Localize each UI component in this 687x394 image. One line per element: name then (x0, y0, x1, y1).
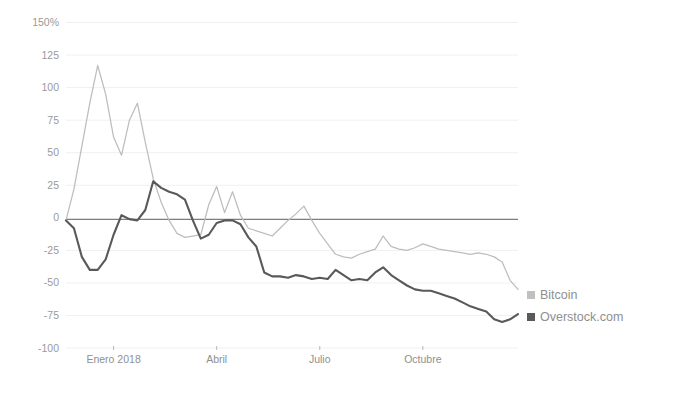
series-line-bitcoin (66, 65, 518, 289)
y-axis-tick-labels: 150%1251007550250-25-50-75-100 (32, 16, 59, 354)
y-axis-tick-label: -50 (44, 276, 59, 288)
y-axis-tick-label: -75 (44, 309, 59, 321)
legend-swatch (527, 291, 535, 299)
series-line-overstock-com (66, 181, 518, 322)
chart-legend: BitcoinOverstock.com (527, 288, 623, 324)
x-axis-tick-label: Abril (206, 353, 227, 365)
legend-swatch (527, 313, 535, 321)
y-axis-tick-label: 25 (47, 179, 59, 191)
legend-label: Overstock.com (540, 310, 623, 324)
line-chart: 150%1251007550250-25-50-75-100 Enero 201… (0, 0, 687, 394)
y-axis-tick-label: 100 (41, 81, 59, 93)
x-axis-tick-label: Enero 2018 (86, 353, 140, 365)
y-axis-tick-label: -25 (44, 244, 59, 256)
x-axis-tick-label: Julio (309, 353, 331, 365)
y-axis-tick-label: 0 (53, 211, 59, 223)
y-axis-tick-label: -100 (38, 342, 59, 354)
y-axis-tick-label: 50 (47, 146, 59, 158)
x-axis-tick-labels: Enero 2018AbrilJulioOctubre (86, 353, 441, 365)
legend-label: Bitcoin (540, 288, 578, 302)
chart-container: 150%1251007550250-25-50-75-100 Enero 201… (0, 0, 687, 394)
y-axis-tick-label: 75 (47, 114, 59, 126)
y-axis-tick-label: 125 (41, 49, 59, 61)
data-series (66, 65, 518, 321)
y-axis-tick-label: 150% (32, 16, 59, 28)
gridlines (66, 23, 518, 349)
x-axis-tick-label: Octubre (404, 353, 442, 365)
